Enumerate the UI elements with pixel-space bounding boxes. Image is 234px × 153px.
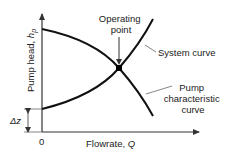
operating-point-marker (116, 65, 122, 71)
system-curve-leader (145, 45, 156, 52)
y-axis-label: Pump head, hp (25, 29, 38, 92)
delta-z-label: Δz (9, 115, 21, 126)
origin-label: 0 (39, 136, 44, 147)
pump-system-diagram: Pump head, hp Flowrate, Q 0 Δz Operating… (0, 0, 234, 153)
pump-characteristic-curve (42, 29, 153, 116)
system-curve-label: System curve (158, 47, 216, 58)
x-axis-label: Flowrate, Q (86, 138, 136, 149)
pump-curve-label: Pump characteristic curve (164, 82, 223, 115)
operating-point-label: Operating point (99, 13, 143, 35)
